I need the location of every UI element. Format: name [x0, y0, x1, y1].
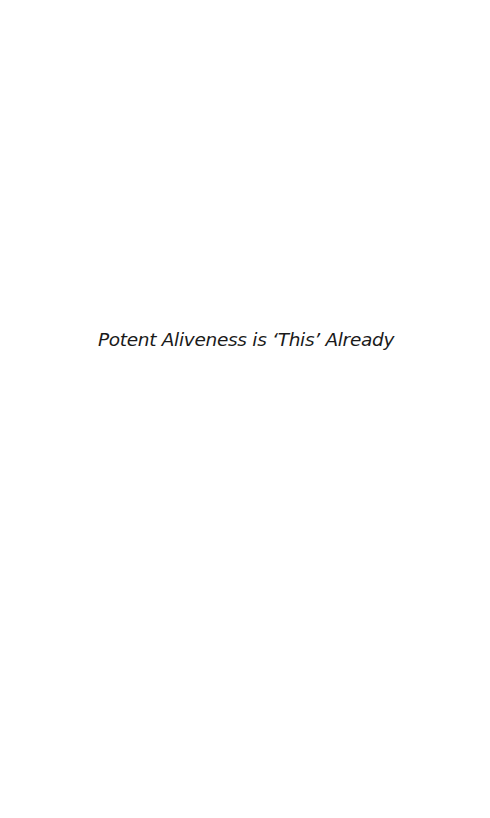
page-title: Potent Aliveness is ‘This’ Already — [0, 329, 490, 350]
book-page: Potent Aliveness is ‘This’ Already — [0, 0, 490, 818]
